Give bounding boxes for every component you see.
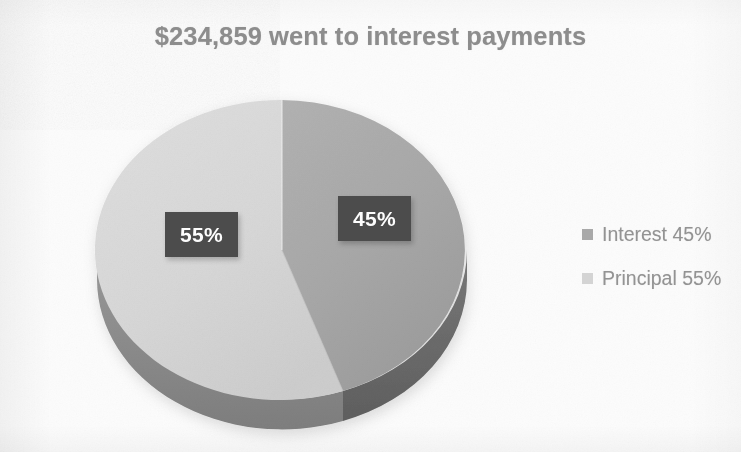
- chart-title: $234,859 went to interest payments: [0, 22, 741, 51]
- legend-swatch-principal-icon: [582, 273, 593, 284]
- legend-label-principal: Principal 55%: [602, 267, 721, 290]
- data-label-interest[interactable]: 45%: [338, 196, 411, 241]
- legend-item-principal[interactable]: Principal 55%: [582, 265, 721, 292]
- legend-swatch-interest-icon: [582, 229, 593, 240]
- chart-legend: Interest 45% Principal 55%: [582, 221, 721, 309]
- data-label-principal[interactable]: 55%: [165, 212, 238, 257]
- chart-canvas: $234,859 went to interest payments 55% 4…: [0, 0, 741, 452]
- legend-label-interest: Interest 45%: [602, 223, 711, 246]
- legend-item-interest[interactable]: Interest 45%: [582, 221, 721, 248]
